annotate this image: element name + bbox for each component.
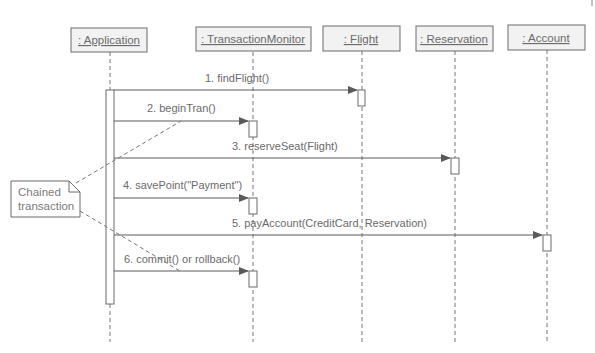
object-application[interactable]: : Application: [71, 28, 147, 52]
note-connectors: [76, 121, 181, 271]
object-label-flight: : Flight: [344, 33, 379, 45]
message-label-5: 5. payAccount(CreditCard, Reservation): [232, 217, 427, 229]
activation-reservation: [451, 158, 459, 174]
activation-account: [543, 235, 551, 251]
object-transaction-monitor[interactable]: : TransactionMonitor: [196, 27, 311, 51]
object-label-application: : Application: [78, 34, 140, 46]
note-line-1: Chained: [18, 186, 61, 198]
activation-transaction-monitor-2: [249, 198, 257, 214]
message-5[interactable]: 5. payAccount(CreditCard, Reservation): [114, 217, 542, 235]
message-1[interactable]: 1. findFlight(): [114, 72, 357, 90]
activation-application: [106, 90, 114, 304]
object-label-reservation: : Reservation: [420, 33, 488, 45]
lifelines: [110, 50, 547, 342]
message-6[interactable]: 6. commit() or rollback(): [114, 253, 248, 271]
message-4[interactable]: 4. savePoint("Payment"): [114, 179, 248, 198]
object-account[interactable]: : Account: [508, 25, 585, 50]
activation-flight: [358, 90, 365, 106]
message-label-4: 4. savePoint("Payment"): [123, 179, 242, 191]
activation-transaction-monitor-3: [249, 271, 257, 287]
object-flight[interactable]: : Flight: [323, 26, 400, 51]
object-reservation[interactable]: : Reservation: [416, 26, 493, 51]
message-label-2: 2. beginTran(): [147, 102, 216, 114]
object-label-transaction-monitor: : TransactionMonitor: [201, 33, 305, 45]
note-line-2: transaction: [18, 200, 74, 212]
message-label-1: 1. findFlight(): [205, 72, 269, 84]
sequence-diagram: : Application : TransactionMonitor : Fli…: [0, 0, 595, 353]
note-connector-begin: [76, 121, 181, 183]
object-label-account: : Account: [522, 32, 570, 44]
activation-transaction-monitor-1: [249, 121, 257, 137]
message-label-6: 6. commit() or rollback(): [124, 253, 240, 265]
message-2[interactable]: 2. beginTran(): [114, 102, 248, 121]
note-chained-transaction[interactable]: Chained transaction: [11, 181, 80, 217]
message-3[interactable]: 3. reserveSeat(Flight): [114, 140, 450, 158]
message-label-3: 3. reserveSeat(Flight): [232, 140, 338, 152]
